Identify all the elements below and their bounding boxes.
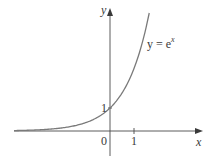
- curve-equation-exponent: x: [171, 35, 175, 44]
- y-axis-label: y: [101, 4, 106, 16]
- x-tick-label-1: 1: [131, 135, 137, 147]
- exponential-chart: [0, 0, 214, 159]
- x-axis-label: x: [196, 136, 201, 148]
- x-axis-arrow-icon: [195, 128, 203, 134]
- y-axis-arrow-icon: [107, 8, 113, 16]
- origin-label: 0: [101, 135, 107, 147]
- curve-equation-label: y = ex: [147, 38, 175, 50]
- y-tick-label-1: 1: [101, 102, 107, 114]
- curve-equation-base: y = e: [147, 37, 171, 51]
- exp-curve: [14, 13, 149, 131]
